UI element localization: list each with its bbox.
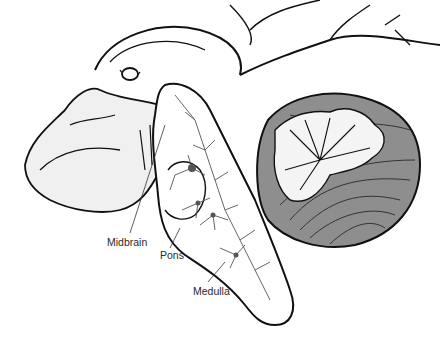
label-medulla: Medulla — [193, 285, 230, 297]
label-pons: Pons — [160, 249, 184, 261]
cortex-outline — [95, 0, 440, 75]
cerebellum — [257, 94, 420, 247]
label-midbrain: Midbrain — [107, 236, 147, 248]
forebrain — [25, 68, 172, 212]
